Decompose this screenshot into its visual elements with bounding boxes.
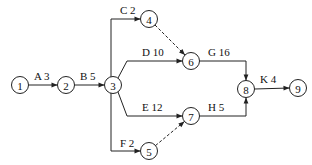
activity-label-d: D 10 bbox=[142, 46, 164, 58]
node-1: 1 bbox=[12, 77, 29, 94]
activity-label-g: G 16 bbox=[208, 46, 230, 58]
dummy-arrow-5-7 bbox=[156, 121, 185, 145]
network-diagram: A 3B 5C 2D 10E 12F 2G 16H 5K 4 123456789 bbox=[0, 0, 312, 165]
node-label: 4 bbox=[146, 14, 152, 26]
activity-label-a: A 3 bbox=[34, 70, 50, 82]
node-label: 7 bbox=[188, 111, 194, 123]
activity-label-c: C 2 bbox=[120, 4, 136, 16]
activity-label-e: E 12 bbox=[142, 101, 162, 113]
node-9: 9 bbox=[290, 80, 307, 97]
activity-arrow-g bbox=[200, 61, 247, 81]
activity-arrow-d bbox=[118, 61, 183, 78]
node-label: 1 bbox=[17, 80, 23, 92]
node-label: 8 bbox=[243, 84, 249, 96]
node-label: 3 bbox=[110, 80, 116, 92]
activity-arrow-c bbox=[111, 19, 141, 77]
activity-label-h: H 5 bbox=[208, 101, 225, 113]
node-7: 7 bbox=[183, 108, 200, 125]
activity-label-k: K 4 bbox=[260, 73, 277, 85]
activity-label-f: F 2 bbox=[120, 137, 134, 149]
node-label: 2 bbox=[63, 80, 69, 92]
activity-label-b: B 5 bbox=[80, 70, 96, 82]
node-8: 8 bbox=[238, 81, 255, 98]
node-label: 6 bbox=[188, 56, 194, 68]
activity-arrow-k bbox=[255, 88, 290, 89]
node-4: 4 bbox=[141, 11, 158, 28]
node-2: 2 bbox=[58, 77, 75, 94]
node-3: 3 bbox=[105, 77, 122, 94]
node-label: 9 bbox=[295, 83, 301, 95]
node-5: 5 bbox=[141, 143, 158, 160]
node-label: 5 bbox=[146, 146, 152, 158]
node-6: 6 bbox=[183, 53, 200, 70]
